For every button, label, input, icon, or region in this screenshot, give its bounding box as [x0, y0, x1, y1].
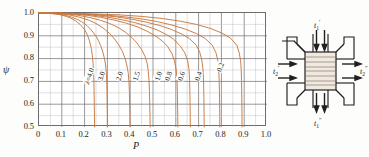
x-axis-title: P — [0, 140, 272, 151]
figure-root: 0.50.60.70.80.91.0 00.10.20.30.40.50.60.… — [0, 0, 369, 157]
chart-curves — [39, 13, 267, 127]
curve-0.2 — [39, 13, 242, 127]
label-hot-inlet: t1′ — [314, 18, 320, 32]
y-tick-1.0: 1.0 — [0, 8, 34, 17]
y-axis-title: ψ — [3, 64, 9, 75]
heat-exchanger-schematic — [272, 0, 369, 157]
y-tick-0.7: 0.7 — [0, 76, 34, 85]
label-hot-outlet: t1″ — [314, 116, 322, 130]
label-cold-inlet: t2′ — [273, 64, 279, 78]
y-tick-0.8: 0.8 — [0, 53, 34, 62]
chart-figure: 0.50.60.70.80.91.0 00.10.20.30.40.50.60.… — [0, 0, 272, 157]
y-tick-0.6: 0.6 — [0, 99, 34, 108]
y-tick-0.9: 0.9 — [0, 31, 34, 40]
curve-3.0 — [39, 13, 107, 127]
label-cold-outlet: t2″ — [360, 64, 368, 78]
plot-area — [38, 12, 266, 126]
heat-exchanger-diagram: t1′ t1″ t2′ t2″ — [272, 0, 369, 157]
